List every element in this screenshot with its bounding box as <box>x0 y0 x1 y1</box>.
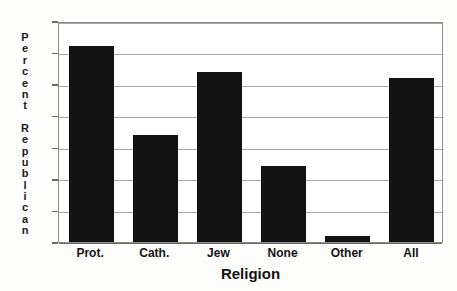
y-axis-title: Percent Republican <box>16 32 34 237</box>
x-tick-label: Jew <box>186 246 250 260</box>
y-tick-mark <box>52 242 58 244</box>
x-tick-label: All <box>379 246 443 260</box>
bar-chart-figure: Percent Republican 05101520253035 Prot.C… <box>0 0 457 291</box>
y-axis-title-char: n <box>22 225 29 236</box>
y-tick-mark <box>52 179 58 181</box>
y-tick-mark <box>52 116 58 118</box>
y-axis-ticks: 05101520253035 <box>58 22 443 243</box>
y-axis-title-word-percent: Percent <box>21 32 28 112</box>
y-axis-title-char: e <box>22 134 28 145</box>
y-axis-title-char: b <box>22 168 29 179</box>
x-tick-label: Other <box>315 246 379 260</box>
x-tick-label: Prot. <box>58 246 122 260</box>
y-tick-mark <box>52 21 58 23</box>
y-tick-mark <box>52 53 58 55</box>
y-axis-title-word-republican: Republican <box>21 123 29 237</box>
x-tick-label: None <box>251 246 315 260</box>
x-tick-label: Cath. <box>122 246 186 260</box>
y-tick-mark <box>52 148 58 150</box>
x-axis-ticks: Prot.Cath.JewNoneOtherAll <box>58 246 443 264</box>
x-axis-title: Religion <box>58 265 443 282</box>
y-axis-title-char: t <box>23 100 27 111</box>
y-axis-title-char: c <box>22 66 28 77</box>
y-tick-mark <box>52 84 58 86</box>
y-tick-mark <box>52 211 58 213</box>
